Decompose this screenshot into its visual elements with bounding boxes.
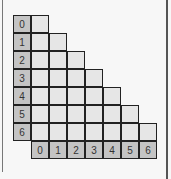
matrix-cell	[49, 105, 67, 123]
matrix-cell	[31, 51, 49, 69]
matrix-cell	[49, 87, 67, 105]
matrix-cell	[139, 123, 157, 141]
matrix-cell	[67, 51, 85, 69]
matrix-cell	[103, 105, 121, 123]
matrix-cell	[103, 123, 121, 141]
matrix-cell	[31, 69, 49, 87]
col-label: 3	[85, 141, 103, 159]
row-label: 1	[13, 33, 31, 51]
row-label: 0	[13, 15, 31, 33]
matrix-cell	[31, 123, 49, 141]
matrix-cell	[121, 105, 139, 123]
col-label: 6	[139, 141, 157, 159]
col-label: 4	[103, 141, 121, 159]
matrix-cell	[67, 123, 85, 141]
col-label: 1	[49, 141, 67, 159]
matrix-cell	[49, 69, 67, 87]
row-label: 5	[13, 105, 31, 123]
matrix-cell	[31, 87, 49, 105]
frame-left-border	[2, 0, 3, 172]
col-label: 5	[121, 141, 139, 159]
matrix-cell	[31, 105, 49, 123]
col-label: 0	[31, 141, 49, 159]
matrix-cell	[85, 123, 103, 141]
matrix-cell	[85, 87, 103, 105]
col-label: 2	[67, 141, 85, 159]
matrix-cell	[49, 123, 67, 141]
matrix-cell	[67, 105, 85, 123]
matrix-cell	[31, 15, 49, 33]
matrix-cell	[67, 69, 85, 87]
matrix-cell	[103, 87, 121, 105]
matrix-cell	[85, 105, 103, 123]
row-label: 3	[13, 69, 31, 87]
row-label: 4	[13, 87, 31, 105]
matrix-cell	[49, 51, 67, 69]
row-label: 6	[13, 123, 31, 141]
matrix-cell	[121, 123, 139, 141]
matrix-cell	[49, 33, 67, 51]
matrix-cell	[67, 87, 85, 105]
frame-right-border	[166, 0, 168, 179]
row-label: 2	[13, 51, 31, 69]
matrix-cell	[31, 33, 49, 51]
matrix-cell	[85, 69, 103, 87]
